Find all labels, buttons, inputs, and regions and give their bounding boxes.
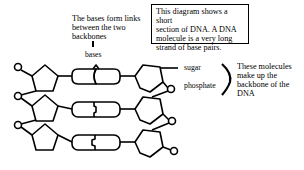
info-line: strand of base pairs. bbox=[156, 43, 244, 52]
backbone-brace bbox=[222, 64, 230, 95]
right-phosphate-1 bbox=[168, 86, 175, 93]
backbone-note-line: make up the bbox=[237, 71, 292, 80]
left-sugar-1 bbox=[32, 65, 58, 91]
right-sugar-1 bbox=[135, 65, 163, 92]
phosphate-label: phosphate bbox=[184, 81, 216, 90]
base-pair-3 bbox=[72, 135, 120, 150]
backbone-note-line: These molecules bbox=[237, 62, 292, 71]
left-phosphate-2 bbox=[15, 93, 22, 100]
left-phosphate-3 bbox=[15, 122, 22, 129]
backbone-note-line: DNA bbox=[237, 89, 292, 98]
bases-note: The bases form links between the two bac… bbox=[72, 14, 140, 41]
info-line: This diagram shows a short bbox=[156, 7, 244, 25]
info-line: section of DNA. A DNA bbox=[156, 25, 244, 34]
right-phosphate-3 bbox=[171, 148, 178, 155]
base-pair-1 bbox=[72, 65, 120, 84]
sugar-label: sugar bbox=[184, 63, 201, 72]
bases-note-line: The bases form links bbox=[72, 14, 140, 23]
info-line: molecule is a very long bbox=[156, 34, 244, 43]
left-sugar-3 bbox=[32, 124, 58, 150]
base-pair-2 bbox=[72, 102, 120, 117]
backbone-note-line: backbone of the bbox=[237, 80, 292, 89]
bases-note-line: backbones bbox=[72, 32, 140, 41]
right-sugar-3 bbox=[135, 130, 163, 157]
info-box: This diagram shows a short section of DN… bbox=[151, 4, 249, 44]
right-phosphate-2 bbox=[169, 118, 176, 125]
right-sugar-2 bbox=[135, 97, 163, 124]
bases-note-line: between the two bbox=[72, 23, 140, 32]
left-sugar-2 bbox=[32, 95, 58, 121]
backbone-note: These molecules make up the backbone of … bbox=[237, 62, 292, 98]
left-phosphate-1 bbox=[15, 64, 22, 71]
bases-label: bases bbox=[85, 50, 101, 59]
